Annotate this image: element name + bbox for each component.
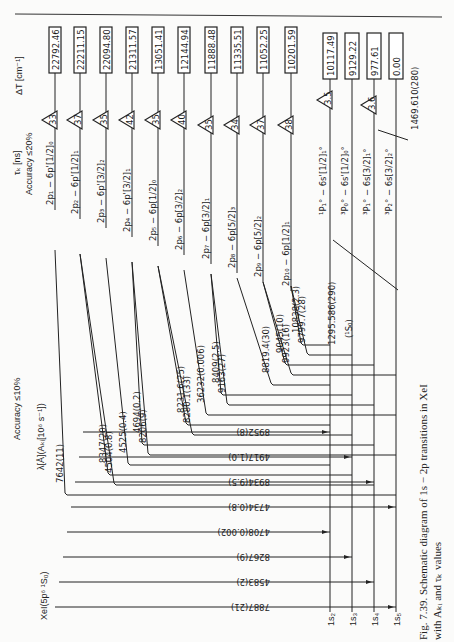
delta-t-label: ΔT [cm⁻¹]	[14, 56, 24, 95]
level-name: ¹P₁° − 6s'[1/2]₁°	[318, 146, 328, 215]
lifetime-value: 42	[125, 114, 135, 125]
energy-value: 0.00	[392, 57, 402, 76]
transition: 4694(0.2)	[132, 262, 374, 445]
figure-caption-line1: Fig. 7.39. Schematic diagram of 1s − 2p …	[417, 384, 429, 640]
level-name: 2p₅ − 6p[1/2]₀	[148, 179, 158, 241]
upper-level: 11888.48352p₇ − 6p[3/2]₁	[198, 27, 217, 264]
transition-label: 8952(8)	[236, 427, 270, 437]
level-name: 2p₁ − 6p'[1/2]₀	[45, 141, 55, 205]
upper-level: 13051.41352p₅ − 6p[1/2]₀	[145, 27, 164, 246]
level-name: ³P₁° − 6s[3/2]₁°	[362, 148, 372, 215]
level-label: 1s₃	[348, 612, 358, 626]
page-rule	[15, 14, 442, 17]
energy-value: 10117.49	[326, 35, 336, 76]
transition: 4708(0.002)	[67, 527, 330, 537]
upper-level: 11052.25372p₉ − 6p[5/2]₂	[250, 27, 269, 282]
transition-label: 4734(0.8)	[228, 502, 270, 512]
lifetime-value: 40	[177, 114, 187, 125]
transition-label: 8280.1(33)	[182, 376, 192, 423]
energy-value: 9129.22	[348, 41, 358, 76]
lambda-label: λ[Å](Aₖᵢ[10⁶ s⁻¹])	[36, 403, 46, 470]
lower-level: 0.00³P₂° − 6s[3/2]₂°1s₅	[384, 33, 403, 626]
transition: 9045(10)	[263, 282, 374, 365]
level-name: 2p₆ − 6p[3/2]₂	[174, 189, 184, 250]
lifetime-value: 33	[48, 114, 58, 125]
lifetime-value: 3.6	[367, 96, 377, 110]
upper-level: 22094.80352p₃ − 6p'[3/2]₂	[93, 27, 112, 228]
lifetime-value: 35	[151, 114, 161, 125]
lifetime-value: 37	[256, 119, 266, 130]
level-name: ³P₂° − 6s[3/2]₂°	[384, 148, 394, 215]
upper-level: 12144.94402p₆ − 6p[3/2]₂	[171, 27, 190, 255]
lifetime-value: 35	[99, 114, 109, 125]
ground-state-label: XeI(5p⁶ ¹S₀)	[39, 572, 49, 620]
transition-label: 9163(27)	[217, 354, 227, 393]
transition: 8267(9)	[63, 552, 352, 562]
level-name: ³P₀° − 6s'[1/2]₀°	[340, 146, 350, 215]
resonance-line-2-label: 1469.610(280)	[410, 67, 420, 130]
level-name: 2p₃ − 6p'[3/2]₂	[96, 159, 106, 223]
transition: 4734(0.8)	[71, 502, 396, 512]
energy-value: 22094.80	[102, 29, 112, 70]
transition-label: 8206(9)	[138, 409, 148, 443]
transition-label: 36232(0.006)	[196, 345, 206, 403]
transition-label: 7887(21)	[231, 602, 270, 612]
upper-level: 21311.57422p₄ − 6p'[3/2]₁	[119, 27, 138, 237]
lifetime-value: 38	[284, 119, 294, 130]
transition-label: 7642(11)	[55, 444, 65, 483]
level-name: 2p₉ − 6p[5/2]₂	[253, 216, 263, 277]
transition-label: 4583(2)	[236, 577, 270, 587]
resonance-line-1-sublabel: (¹S₀)	[344, 319, 354, 338]
lifetime-value: 34	[230, 119, 240, 130]
energy-value: 22792.46	[51, 29, 61, 70]
level-diagram: ΔT [cm⁻¹] τₖ [ns] Accuracy ≤20% Accuracy…	[0, 0, 454, 642]
figure-caption-line2: with Aₖᵢ and τₖ values	[431, 542, 443, 640]
lower-level: 977.613.6³P₁° − 6s[3/2]₁°1s₄	[361, 33, 381, 626]
transition-label: 8819.4(30)	[261, 326, 271, 373]
energy-value: 977.61	[370, 46, 380, 76]
transition: 7887(21)	[55, 602, 396, 612]
energy-value: 12144.94	[180, 29, 190, 70]
level-name: 2p₇ − 6p[3/2]₁	[201, 198, 211, 259]
energy-value: 13051.41	[154, 29, 164, 70]
transition: 4583(2)	[59, 577, 374, 587]
transition-label: 4504(0.8)	[104, 431, 114, 473]
energy-value: 21311.57	[128, 29, 138, 70]
energy-value: 11888.48	[207, 29, 217, 70]
energy-value: 11052.25	[259, 29, 269, 70]
transition-label: 4708(0.002)	[217, 527, 270, 537]
upper-level: 22792.46332p₁ − 6p'[1/2]₀	[42, 27, 61, 210]
energy-value: 10201.59	[287, 29, 297, 70]
tau-label: τₖ [ns]	[12, 150, 22, 175]
lifetime-value: 3.5	[323, 91, 333, 105]
level-label: 1s₅	[392, 612, 402, 626]
resonance-line-1-label: 1295.586(290)	[327, 282, 337, 345]
transition-label: 9799.7(28)	[297, 296, 307, 343]
transition-lines: 10838(2.3)9799.7(28)9045(10)9923(16)8819…	[55, 130, 408, 612]
level-name: 2p₁₀ − 6p[1/2]₁	[281, 221, 291, 286]
energy-value: 11335.51	[233, 29, 243, 70]
tau-accuracy-label: Accuracy ≤20%	[24, 133, 34, 195]
lifetime-value: 35	[204, 119, 214, 130]
level-name: 2p₂ − 6p'[1/2]₁	[70, 150, 80, 214]
level-label: 1s₂	[326, 612, 336, 626]
transition-label: 8267(9)	[236, 552, 270, 562]
transition-label: 9923(16)	[281, 324, 291, 363]
upper-level: 11335.51342p₈ − 6p[5/2]₃	[224, 27, 243, 273]
level-label: 1s₄	[370, 612, 380, 626]
level-name: 2p₈ − 6p[5/2]₃	[227, 207, 237, 268]
level-name: 2p₄ − 6p'[3/2]₁	[122, 168, 132, 232]
lifetime-value: 37	[73, 114, 83, 125]
transition-label: 4917(1.0)	[228, 452, 270, 462]
upper-level: 22211.15372p₂ − 6p'[1/2]₁	[67, 27, 86, 219]
energy-value: 22211.15	[76, 29, 86, 70]
transition-label: 8934(9.5)	[228, 477, 270, 487]
upper-level: 10201.59382p₁₀ − 6p[1/2]₁	[278, 27, 297, 291]
lambda-accuracy-label: Accuracy ≤10%	[12, 378, 22, 440]
